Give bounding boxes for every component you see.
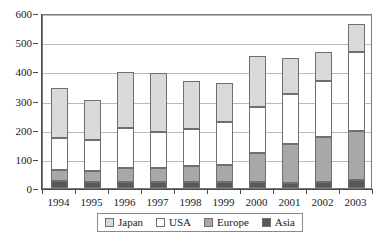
bar-segment-asia[interactable] <box>84 182 101 188</box>
bar-stack[interactable] <box>348 13 365 188</box>
bar-segment-asia[interactable] <box>348 180 365 188</box>
x-tick-mark <box>42 190 43 194</box>
bar-segment-asia[interactable] <box>183 182 200 188</box>
bar-segment-europe[interactable] <box>150 168 167 183</box>
bar-segment-asia[interactable] <box>282 183 299 188</box>
x-tick-mark <box>240 190 241 194</box>
chart-legend: JapanUSAEuropeAsia <box>97 213 303 232</box>
y-tick-label: 100 <box>16 154 33 165</box>
bar-segment-japan[interactable] <box>282 58 299 94</box>
bar-segment-europe[interactable] <box>216 165 233 183</box>
bar-stack[interactable] <box>315 13 332 188</box>
legend-label: USA <box>169 216 191 228</box>
bar-segment-asia[interactable] <box>150 182 167 188</box>
bar-segment-asia[interactable] <box>51 181 68 188</box>
legend-item-japan[interactable]: Japan <box>105 216 143 228</box>
y-tick-mark <box>33 102 38 103</box>
bar-segment-japan[interactable] <box>183 81 200 129</box>
bar-segment-usa[interactable] <box>150 132 167 168</box>
bar-segment-europe[interactable] <box>315 137 332 181</box>
y-tick-label: 0 <box>27 184 33 195</box>
bar-segment-asia[interactable] <box>216 182 233 188</box>
plot-area <box>42 14 372 189</box>
bar-stack[interactable] <box>183 13 200 188</box>
legend-item-usa[interactable]: USA <box>156 216 191 228</box>
legend-swatch-icon <box>156 218 165 227</box>
bar-segment-europe[interactable] <box>51 170 68 181</box>
y-tick-label: 600 <box>16 9 33 20</box>
y-tick-label: 500 <box>16 38 33 49</box>
bar-segment-japan[interactable] <box>51 88 68 138</box>
x-tick-label: 1997 <box>147 196 169 208</box>
x-tick-label: 1998 <box>180 196 202 208</box>
x-tick-label: 1995 <box>81 196 103 208</box>
bar-stack[interactable] <box>84 13 101 188</box>
bar-segment-usa[interactable] <box>183 129 200 166</box>
legend-swatch-icon <box>262 218 271 227</box>
bar-segment-europe[interactable] <box>117 168 134 182</box>
bar-stack[interactable] <box>282 13 299 188</box>
x-tick-label: 1996 <box>114 196 136 208</box>
x-tick-mark <box>372 190 373 194</box>
bar-segment-japan[interactable] <box>249 56 266 107</box>
x-tick-mark <box>141 190 142 194</box>
bar-stack[interactable] <box>117 13 134 188</box>
bar-segment-europe[interactable] <box>84 171 101 181</box>
legend-swatch-icon <box>105 218 114 227</box>
legend-label: Asia <box>275 216 295 228</box>
stacked-bar-chart: 0100200300400500600 19941995199619971998… <box>0 0 381 245</box>
y-tick-mark <box>33 72 38 73</box>
x-tick-mark <box>306 190 307 194</box>
bar-segment-usa[interactable] <box>315 81 332 138</box>
x-tick-mark <box>75 190 76 194</box>
legend-swatch-icon <box>204 218 213 227</box>
bar-segment-japan[interactable] <box>315 52 332 81</box>
bar-segment-asia[interactable] <box>315 182 332 188</box>
bar-segment-usa[interactable] <box>51 138 68 170</box>
x-tick-mark <box>273 190 274 194</box>
x-tick-mark <box>174 190 175 194</box>
bar-segment-asia[interactable] <box>249 182 266 188</box>
x-tick-label: 1994 <box>48 196 70 208</box>
bar-segment-europe[interactable] <box>249 153 266 182</box>
legend-label: Japan <box>118 216 143 228</box>
bar-segment-europe[interactable] <box>183 166 200 182</box>
x-tick-label: 2001 <box>279 196 301 208</box>
y-tick-mark <box>33 14 38 15</box>
bar-stack[interactable] <box>51 13 68 188</box>
bar-segment-usa[interactable] <box>282 94 299 144</box>
y-axis: 0100200300400500600 <box>0 0 42 245</box>
x-tick-mark <box>108 190 109 194</box>
x-tick-label: 2002 <box>312 196 334 208</box>
y-tick-mark <box>33 160 38 161</box>
bar-segment-japan[interactable] <box>117 72 134 128</box>
y-tick-mark <box>33 43 38 44</box>
bar-segment-usa[interactable] <box>117 128 134 167</box>
legend-label: Europe <box>217 216 249 228</box>
bar-stack[interactable] <box>150 13 167 188</box>
bar-segment-japan[interactable] <box>216 83 233 122</box>
y-tick-label: 200 <box>16 125 33 136</box>
y-tick-mark <box>33 189 38 190</box>
legend-item-europe[interactable]: Europe <box>204 216 249 228</box>
bar-stack[interactable] <box>216 13 233 188</box>
x-tick-label: 2000 <box>246 196 268 208</box>
bar-segment-europe[interactable] <box>348 131 365 180</box>
bar-segment-japan[interactable] <box>84 100 101 141</box>
bar-segment-usa[interactable] <box>348 52 365 131</box>
y-tick-label: 300 <box>16 96 33 107</box>
bar-segment-japan[interactable] <box>348 24 365 52</box>
legend-item-asia[interactable]: Asia <box>262 216 295 228</box>
bar-segment-europe[interactable] <box>282 144 299 183</box>
x-tick-label: 1999 <box>213 196 235 208</box>
y-tick-mark <box>33 131 38 132</box>
bar-segment-usa[interactable] <box>216 122 233 165</box>
x-tick-mark <box>339 190 340 194</box>
bar-segment-japan[interactable] <box>150 73 167 133</box>
y-tick-label: 400 <box>16 67 33 78</box>
bar-segment-usa[interactable] <box>84 140 101 171</box>
x-tick-label: 2003 <box>345 196 367 208</box>
bar-segment-asia[interactable] <box>117 182 134 188</box>
bar-segment-usa[interactable] <box>249 107 266 153</box>
bar-stack[interactable] <box>249 13 266 188</box>
